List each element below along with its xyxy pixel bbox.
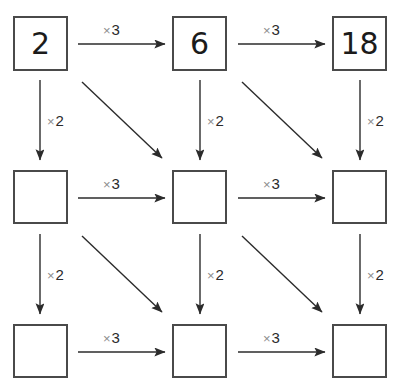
grid-cell-value: 18	[340, 29, 378, 59]
diagonal-arrow-d-r2c1-r3c2	[82, 236, 162, 312]
grid-cell-r2c1[interactable]	[13, 170, 68, 224]
vertical-arrow-label-v-c3-r2r3: ×2	[367, 266, 384, 283]
horizontal-arrow-label-h-r2-c1c2: ×3	[103, 175, 120, 192]
times-symbol-icon: ×	[367, 268, 376, 283]
times-symbol-icon: ×	[263, 177, 272, 192]
grid-cell-r3c2[interactable]	[172, 324, 227, 378]
grid-cell-r3c3[interactable]	[332, 324, 387, 378]
times-symbol-icon: ×	[207, 114, 216, 129]
multiplier-value: 3	[272, 329, 280, 346]
vertical-arrow-label-v-c1-r1r2: ×2	[47, 112, 64, 129]
multiplier-value: 3	[272, 175, 280, 192]
horizontal-arrow-label-h-r3-c1c2: ×3	[103, 329, 120, 346]
grid-cell-r2c3[interactable]	[332, 170, 387, 224]
times-symbol-icon: ×	[47, 114, 56, 129]
multiplier-value: 2	[216, 266, 224, 283]
horizontal-arrow-label-h-r1-c1c2: ×3	[103, 21, 120, 38]
multiplier-value: 2	[56, 266, 64, 283]
vertical-arrow-label-v-c2-r2r3: ×2	[207, 266, 224, 283]
grid-cell-r1c1[interactable]: 2	[13, 16, 68, 71]
multiplier-value: 2	[376, 112, 384, 129]
horizontal-arrow-label-h-r1-c2c3: ×3	[263, 21, 280, 38]
times-symbol-icon: ×	[207, 268, 216, 283]
diagonal-arrow-d-r1c1-r2c2	[82, 82, 162, 158]
grid-cell-r1c3[interactable]: 18	[332, 16, 387, 71]
multiplication-grid-diagram: 2 6 18 ×3×3×3×3×3×3×2×2×2×2×2×2	[0, 0, 401, 384]
times-symbol-icon: ×	[263, 23, 272, 38]
times-symbol-icon: ×	[103, 331, 112, 346]
multiplier-value: 3	[272, 21, 280, 38]
grid-cell-value: 6	[190, 29, 209, 59]
grid-cell-r2c2[interactable]	[172, 170, 227, 224]
vertical-arrow-label-v-c3-r1r2: ×2	[367, 112, 384, 129]
times-symbol-icon: ×	[263, 331, 272, 346]
times-symbol-icon: ×	[103, 177, 112, 192]
grid-cell-value: 2	[31, 29, 50, 59]
multiplier-value: 2	[376, 266, 384, 283]
multiplier-value: 2	[56, 112, 64, 129]
multiplier-value: 3	[112, 175, 120, 192]
multiplier-value: 2	[216, 112, 224, 129]
multiplier-value: 3	[112, 329, 120, 346]
grid-cell-r1c2[interactable]: 6	[172, 16, 227, 71]
times-symbol-icon: ×	[47, 268, 56, 283]
times-symbol-icon: ×	[103, 23, 112, 38]
horizontal-arrow-label-h-r3-c2c3: ×3	[263, 329, 280, 346]
diagonal-arrow-d-r1c2-r2c3	[242, 82, 322, 158]
grid-cell-r3c1[interactable]	[13, 324, 68, 378]
multiplier-value: 3	[112, 21, 120, 38]
times-symbol-icon: ×	[367, 114, 376, 129]
vertical-arrow-label-v-c1-r2r3: ×2	[47, 266, 64, 283]
vertical-arrow-label-v-c2-r1r2: ×2	[207, 112, 224, 129]
diagonal-arrow-d-r2c2-r3c3	[242, 236, 322, 312]
horizontal-arrow-label-h-r2-c2c3: ×3	[263, 175, 280, 192]
